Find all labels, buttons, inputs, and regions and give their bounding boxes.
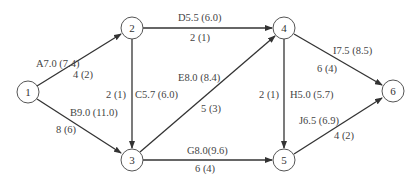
node-5: 5 — [273, 149, 295, 171]
node-1-label: 1 — [25, 86, 31, 98]
node-3: 3 — [121, 149, 143, 171]
node-2-label: 2 — [129, 22, 135, 34]
edge-i — [294, 34, 382, 85]
node-6: 6 — [382, 80, 404, 102]
node-5-label: 5 — [281, 154, 287, 166]
node-4: 4 — [273, 17, 295, 39]
node-1: 1 — [17, 81, 39, 103]
edge-i-time-label: 6 (4) — [317, 63, 338, 75]
network-diagram: A7.0 (7.4) 4 (2) B9.0 (11.0) 8 (6) 2 (1)… — [0, 0, 417, 184]
edge-j — [294, 98, 382, 154]
node-6-label: 6 — [390, 85, 396, 97]
edge-a-time-label: 4 (2) — [73, 69, 94, 81]
edge-b-activity-label: B9.0 (11.0) — [70, 107, 118, 119]
edge-c-activity-label: C5.7 (6.0) — [135, 89, 178, 101]
edge-g-time-label: 6 (4) — [195, 163, 216, 175]
node-3-label: 3 — [129, 154, 135, 166]
edge-j-time-label: 4 (2) — [334, 130, 355, 142]
edge-i-activity-label: I7.5 (8.5) — [333, 45, 373, 57]
node-4-label: 4 — [281, 22, 287, 34]
edge-g-activity-label: G8.0(9.6) — [187, 145, 228, 157]
edge-e-activity-label: E8.0 (8.4) — [178, 72, 221, 84]
edge-h-time-label: 2 (1) — [259, 89, 280, 101]
edge-d-time-label: 2 (1) — [190, 32, 211, 44]
edge-b-time-label: 8 (6) — [56, 124, 77, 136]
edge-c-time-label: 2 (1) — [106, 89, 127, 101]
edge-d-activity-label: D5.5 (6.0) — [178, 12, 222, 24]
edge-h-activity-label: H5.0 (5.7) — [290, 89, 334, 101]
node-2: 2 — [121, 17, 143, 39]
edge-j-activity-label: J6.5 (6.9) — [299, 115, 339, 127]
edge-e-time-label: 5 (3) — [201, 103, 222, 115]
